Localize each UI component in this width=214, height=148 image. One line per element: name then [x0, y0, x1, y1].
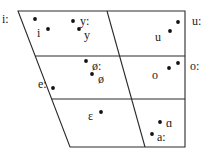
- vowel-point: o: [152, 66, 171, 82]
- vowel-dot: [90, 72, 94, 76]
- vowel-point: y:: [71, 14, 89, 28]
- vowel-point: o:: [176, 59, 199, 73]
- vowel-dot: [176, 61, 180, 65]
- vowel-dot: [77, 27, 81, 31]
- vowel-label: ø:: [92, 59, 101, 73]
- vowel-dot: [33, 17, 37, 21]
- vowel-dot: [167, 66, 171, 70]
- vowel-label: a:: [157, 130, 166, 144]
- vowel-point: i: [37, 26, 50, 40]
- vowel-label: e:: [38, 77, 47, 91]
- vowel-point: y: [77, 27, 90, 42]
- front-back-divider: [107, 11, 145, 147]
- vowel-point: u: [155, 29, 172, 44]
- vowel-label: o:: [190, 59, 199, 73]
- vowel-dot: [150, 132, 154, 136]
- vowel-label: i:: [2, 12, 9, 26]
- vowel-label: ε: [88, 109, 93, 123]
- vowel-point: u:: [176, 14, 201, 28]
- vowel-label: u:: [192, 14, 201, 28]
- vowel-dot: [84, 59, 88, 63]
- vowel-label: o: [152, 68, 158, 82]
- vowel-dot: [176, 20, 180, 24]
- vowel-dot: [158, 120, 162, 124]
- vowel-point: a:: [150, 130, 166, 144]
- vowel-point: ɑ: [158, 116, 172, 130]
- vowel-label: ø: [98, 72, 104, 86]
- vowel-dot: [168, 29, 172, 33]
- vowel-dot: [71, 19, 75, 23]
- vowel-label: ɑ: [166, 116, 172, 130]
- vowel-point: ø: [90, 72, 104, 86]
- vowel-point: ε: [88, 109, 103, 123]
- vowel-dot: [46, 27, 50, 31]
- vowel-label: i: [37, 26, 41, 40]
- vowel-point: ø:: [84, 59, 101, 73]
- vowel-chart: i:iy:yu:uø:øe:o:oεɑa:: [0, 0, 214, 148]
- vowel-point: e:: [38, 77, 55, 91]
- vowel-points: i:iy:yu:uø:øe:o:oεɑa:: [2, 12, 201, 144]
- vowel-dot: [51, 86, 55, 90]
- vowel-label: y:: [80, 14, 89, 28]
- vowel-dot: [99, 110, 103, 114]
- vowel-label: u: [155, 30, 161, 44]
- vowel-label: y: [84, 28, 90, 42]
